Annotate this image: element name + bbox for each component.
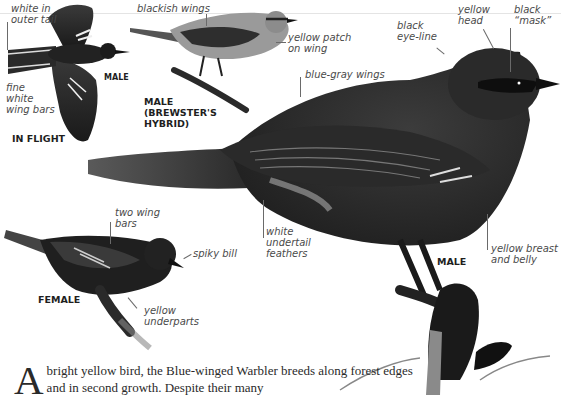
leader-line xyxy=(7,22,8,50)
annotation-black-mask: black “mask” xyxy=(514,4,551,26)
annotation-yellow-underparts: yellow underparts xyxy=(144,305,199,327)
leader-line xyxy=(487,214,488,250)
leader-line xyxy=(206,14,207,26)
leader-line xyxy=(510,28,511,72)
annotation-black-eye-line: black eye-line xyxy=(397,20,437,42)
leader-line xyxy=(110,222,111,244)
caption-male-main: MALE xyxy=(437,256,466,267)
caption-female: FEMALE xyxy=(38,294,80,305)
leader-line xyxy=(300,77,301,97)
annotation-spiky-bill: spiky bill xyxy=(193,248,237,259)
species-description: A bright yellow bird, the Blue-winged Wa… xyxy=(14,362,414,395)
annotation-white-outer-tail: white in outer tail xyxy=(11,3,56,25)
drop-cap: A xyxy=(14,364,44,395)
annotation-white-undertail: white undertail feathers xyxy=(266,226,311,259)
annotation-yellow-head: yellow head xyxy=(458,4,490,26)
female-bird-illustration xyxy=(0,220,200,355)
caption-in-flight: IN FLIGHT xyxy=(12,133,65,144)
annotation-yellow-breast-belly: yellow breast and belly xyxy=(491,243,558,265)
annotation-fine-white-wing-bars: fine white wing bars xyxy=(6,82,55,115)
annotation-blackish-wings: blackish wings xyxy=(137,3,210,14)
description-text: bright yellow bird, the Blue-winged Warb… xyxy=(47,363,413,395)
annotation-blue-gray-wings: blue-gray wings xyxy=(305,69,385,80)
leader-line xyxy=(263,200,264,238)
annotation-two-wing-bars: two wing bars xyxy=(115,207,160,229)
